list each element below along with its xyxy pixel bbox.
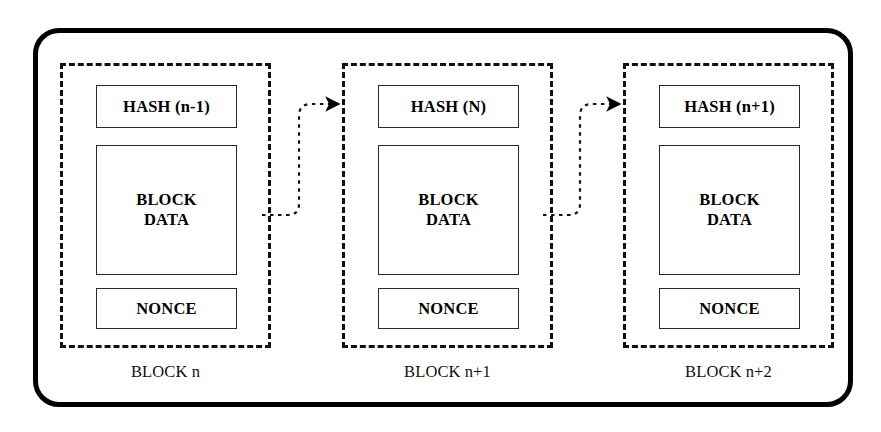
block-n-plus-2: HASH (n+1) BLOCK DATA NONCE [623,63,834,348]
nonce-box: NONCE [378,288,519,329]
block-data-box: BLOCK DATA [96,145,237,275]
block-data-box: BLOCK DATA [659,145,800,275]
block-label-n: BLOCK n [60,362,271,382]
block-data-line-1: BLOCK [699,190,760,210]
blockchain-diagram: HASH (n-1) BLOCK DATA NONCE BLOCK n HASH… [0,0,881,432]
block-data-line-2: DATA [144,210,189,230]
block-label-n-plus-2: BLOCK n+2 [623,362,834,382]
block-data-line-1: BLOCK [136,190,197,210]
nonce-box: NONCE [659,288,800,329]
hash-box: HASH (n-1) [96,85,237,128]
block-data-line-2: DATA [426,210,471,230]
hash-box: HASH (n+1) [659,85,800,128]
block-label-n-plus-1: BLOCK n+1 [342,362,553,382]
block-data-line-2: DATA [707,210,752,230]
block-data-line-1: BLOCK [418,190,479,210]
block-data-box: BLOCK DATA [378,145,519,275]
hash-box: HASH (N) [378,85,519,128]
block-n: HASH (n-1) BLOCK DATA NONCE [60,63,271,348]
block-n-plus-1: HASH (N) BLOCK DATA NONCE [342,63,553,348]
nonce-box: NONCE [96,288,237,329]
